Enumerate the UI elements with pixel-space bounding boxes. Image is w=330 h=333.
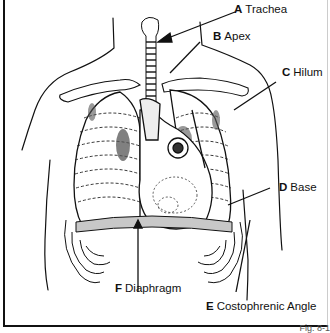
label-letter: E bbox=[206, 300, 214, 312]
label-c-hilum: CHilum bbox=[282, 67, 323, 79]
label-b-apex: BApex bbox=[213, 31, 251, 43]
left-lung bbox=[74, 92, 140, 225]
label-d-base: DBase bbox=[279, 182, 317, 194]
label-text: Hilum bbox=[293, 66, 322, 78]
label-text: Apex bbox=[224, 30, 250, 42]
label-text: Base bbox=[290, 181, 316, 193]
label-text: Diaphragm bbox=[125, 282, 181, 294]
trachea bbox=[142, 17, 159, 108]
label-letter: F bbox=[115, 282, 122, 294]
label-letter: C bbox=[282, 66, 290, 78]
label-f-diaphragm: FDiaphragm bbox=[115, 283, 181, 295]
label-text: Trachea bbox=[245, 3, 287, 15]
label-a-trachea: ATrachea bbox=[234, 4, 287, 16]
label-letter: A bbox=[234, 3, 242, 15]
label-letter: D bbox=[279, 181, 287, 193]
label-text: Costophrenic Angle bbox=[217, 300, 317, 312]
left-body-outline bbox=[45, 160, 50, 290]
figure-caption: Fig. 8-1 bbox=[299, 324, 330, 333]
label-letter: B bbox=[213, 30, 221, 42]
label-e-costophrenic-angle: ECostophrenic Angle bbox=[206, 301, 316, 313]
